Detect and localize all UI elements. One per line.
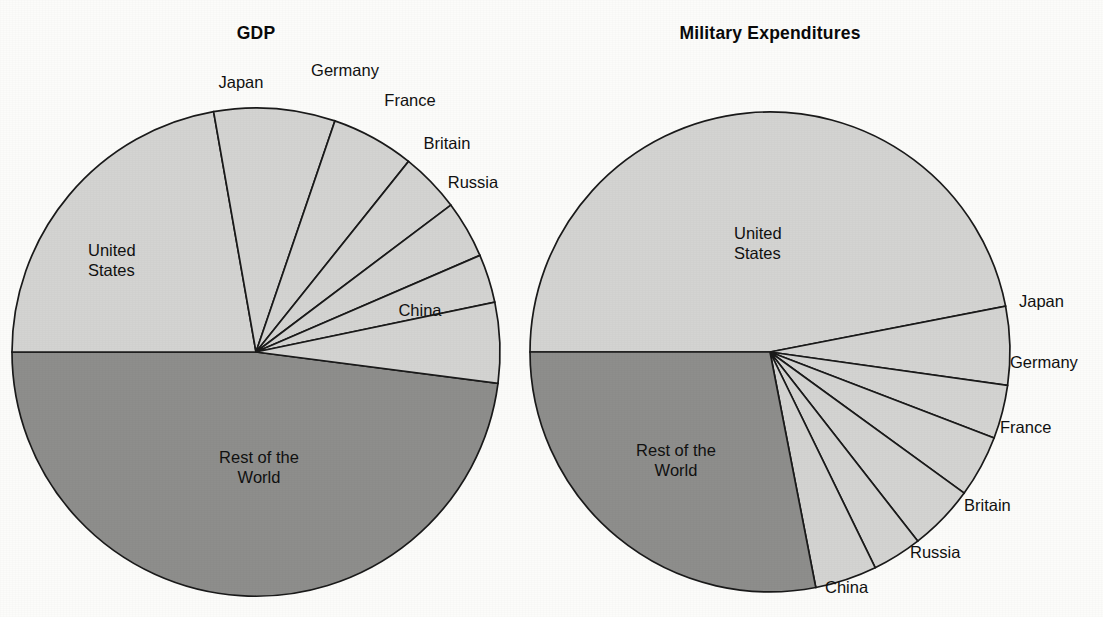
military-label-united-states-line1: United [734,223,782,243]
military-label-rest-of-world: Rest of the World [636,440,716,480]
military-label-france: France [1000,417,1051,437]
gdp-label-france: France [384,90,435,110]
gdp-label-britain: Britain [424,133,471,153]
military-label-russia: Russia [910,542,960,562]
military-pie [530,112,1010,592]
gdp-label-germany: Germany [311,60,379,80]
chart-page: GDP Military Expenditures [0,0,1103,617]
gdp-label-china: China [398,300,441,320]
military-label-china: China [825,577,868,597]
gdp-label-japan: Japan [219,72,264,92]
gdp-label-united-states-line2: States [88,260,136,280]
pies-svg [0,0,1103,617]
military-label-rest-of-world-line2: World [636,460,716,480]
military-label-japan: Japan [1019,291,1064,311]
military-label-germany: Germany [1010,352,1078,372]
gdp-pie [12,108,500,596]
military-label-rest-of-world-line1: Rest of the [636,440,716,460]
gdp-label-united-states-line1: United [88,240,136,260]
gdp-label-rest-of-world-line1: Rest of the [219,447,299,467]
military-label-united-states-line2: States [734,243,782,263]
gdp-label-russia: Russia [448,172,498,192]
military-label-britain: Britain [964,495,1011,515]
gdp-label-rest-of-world-line2: World [219,467,299,487]
military-label-united-states: United States [734,223,782,263]
gdp-label-united-states: United States [88,240,136,280]
gdp-label-rest-of-world: Rest of the World [219,447,299,487]
